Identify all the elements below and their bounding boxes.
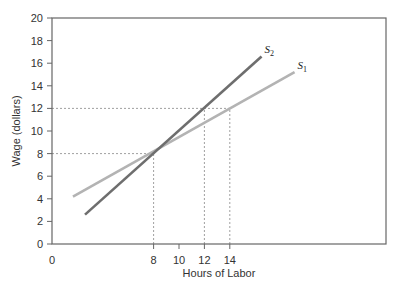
series-label-s1: S1 (298, 59, 308, 74)
y-tick-label: 8 (37, 148, 43, 160)
y-tick-label: 18 (31, 35, 43, 47)
y-tick-label: 12 (31, 102, 43, 114)
plot-frame (52, 18, 386, 244)
x-tick-label: 12 (198, 254, 210, 266)
y-tick-label: 20 (31, 12, 43, 24)
y-tick-label: 2 (37, 215, 43, 227)
reference-lines (52, 108, 230, 244)
x-tick-label: 0 (49, 254, 55, 266)
x-axis: 08101214 (49, 244, 236, 266)
y-tick-label: 6 (37, 170, 43, 182)
x-tick-label: 10 (173, 254, 185, 266)
series-labels: S1S2 (265, 43, 308, 74)
x-tick-label: 14 (224, 254, 236, 266)
y-tick-label: 0 (37, 238, 43, 250)
y-tick-label: 4 (37, 193, 43, 205)
x-axis-title: Hours of Labor (183, 267, 256, 279)
x-tick-label: 8 (151, 254, 157, 266)
wage-chart: 02468101214161820 08101214 Hours of Labo… (0, 0, 394, 290)
y-tick-label: 10 (31, 125, 43, 137)
y-axis: 02468101214161820 (31, 12, 52, 250)
series-line-s2 (85, 56, 262, 214)
series-lines (73, 56, 295, 214)
series-label-s2: S2 (265, 43, 275, 58)
y-tick-label: 16 (31, 57, 43, 69)
y-axis-title: Wage (dollars) (10, 95, 22, 166)
y-tick-label: 14 (31, 80, 43, 92)
series-line-s1 (73, 72, 295, 196)
